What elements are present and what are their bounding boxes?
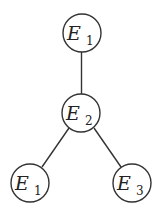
node-subscript: 1	[86, 34, 94, 48]
node-label: E	[66, 22, 81, 44]
edge-n2-n4	[94, 128, 121, 167]
node-bottom-right-e3: E 3	[113, 164, 151, 202]
node-bottom-left-e1: E 1	[11, 164, 49, 202]
node-middle-e2: E 2	[62, 94, 100, 132]
node-subscript: 3	[136, 184, 144, 198]
tree-diagram: E 1 E 2 E 1 E 3	[0, 0, 160, 216]
node-label: E	[14, 172, 29, 194]
node-subscript: 2	[85, 114, 93, 128]
edge-n2-n3	[42, 128, 69, 167]
node-label: E	[65, 102, 80, 124]
node-subscript: 1	[34, 184, 42, 198]
node-label: E	[116, 172, 131, 194]
node-top-e1: E 1	[63, 14, 101, 52]
